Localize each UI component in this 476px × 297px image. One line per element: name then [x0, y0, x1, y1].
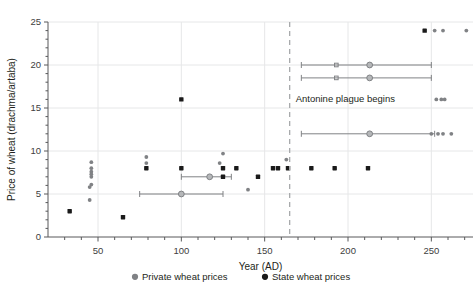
data-point-private [284, 158, 288, 162]
data-point-private [439, 98, 443, 102]
error-bar-center-marker [367, 131, 373, 137]
data-point-private [433, 29, 437, 33]
legend-swatch-private [132, 274, 138, 280]
y-axis-title: Price of wheat (drachma/artaba) [6, 58, 17, 201]
legend-swatch-state [262, 274, 268, 280]
error-bar-center-marker [178, 191, 184, 197]
data-point-private [89, 166, 93, 170]
data-point-state [271, 166, 275, 170]
error-bar-center-marker [367, 62, 373, 68]
error-bar-center-marker [367, 75, 373, 81]
data-point-private [89, 175, 93, 179]
data-point-private [436, 132, 440, 136]
x-tick-label: 150 [257, 245, 273, 256]
data-point-private [434, 98, 438, 102]
data-point-private [218, 161, 222, 165]
data-point-private [144, 155, 148, 159]
data-point-private [441, 132, 445, 136]
data-point-private [221, 152, 225, 156]
data-point-state [276, 166, 280, 170]
data-point-private [449, 132, 453, 136]
data-point-private [89, 160, 93, 164]
y-tick-label: 10 [30, 145, 41, 156]
data-point-private [246, 188, 250, 192]
data-point-private [464, 29, 468, 33]
data-point-state [179, 97, 183, 101]
data-point-private [88, 185, 92, 189]
data-point-private [443, 98, 447, 102]
data-point-state [144, 166, 148, 170]
x-tick-label: 100 [173, 245, 189, 256]
data-point-state [221, 175, 225, 179]
legend-label-state: State wheat prices [272, 271, 350, 282]
y-tick-label: 0 [36, 231, 41, 242]
data-point-state [366, 166, 370, 170]
data-point-private [144, 161, 148, 165]
legend-label-private: Private wheat prices [142, 271, 228, 282]
data-point-state [179, 166, 183, 170]
data-point-state [121, 215, 125, 219]
error-bar-center-marker [207, 174, 213, 180]
x-tick-label: 250 [423, 245, 439, 256]
y-tick-label: 25 [30, 16, 41, 27]
y-tick-label: 15 [30, 102, 41, 113]
y-tick-label: 20 [30, 59, 41, 70]
data-point-private [429, 132, 433, 136]
data-point-state [332, 166, 336, 170]
x-tick-label: 200 [340, 245, 356, 256]
data-point-state [67, 209, 71, 213]
data-point-state [422, 28, 426, 32]
data-point-private [441, 29, 445, 33]
data-point-private [88, 198, 92, 202]
data-point-state [256, 175, 260, 179]
antonine-plague-label: Antonine plague begins [296, 93, 396, 104]
data-point-state [221, 166, 225, 170]
x-tick-label: 50 [93, 245, 104, 256]
wheat-price-scatter-chart: 051015202550100150200250Year (AD)Price o… [0, 0, 476, 297]
chart-svg: 051015202550100150200250Year (AD)Price o… [0, 0, 476, 297]
data-point-state [234, 166, 238, 170]
data-point-state [309, 166, 313, 170]
y-tick-label: 5 [36, 188, 41, 199]
